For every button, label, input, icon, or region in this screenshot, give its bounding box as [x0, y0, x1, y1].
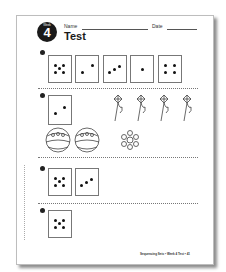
dot-card-5 [48, 168, 72, 196]
copyright-margin [24, 165, 27, 240]
date-line [167, 29, 197, 30]
question-1-marker [40, 50, 45, 55]
name-line [82, 29, 148, 30]
badge-number: 4 [37, 26, 57, 40]
dot-card-1 [130, 55, 154, 83]
separator [38, 88, 198, 89]
week-badge: Week 4 [37, 22, 57, 42]
dot-card-3 [75, 168, 99, 196]
name-label: Name [64, 23, 77, 29]
separator [38, 157, 198, 158]
dot-card-3 [103, 55, 127, 83]
page-footer: Sequencing Sets • Week 4 Test • 41 [140, 252, 190, 256]
page-title: Test [64, 30, 86, 42]
balls-and-flower-illustration [45, 127, 165, 155]
kites-illustration [110, 93, 205, 123]
question-4-marker [40, 208, 45, 213]
separator [38, 203, 198, 204]
question-3-marker [40, 166, 45, 171]
dot-card-5 [48, 55, 72, 83]
dot-card-5 [48, 210, 72, 238]
dot-card-2 [48, 95, 72, 125]
dot-card-4 [158, 55, 182, 83]
dot-card-2 [75, 55, 99, 83]
question-2-marker [40, 93, 45, 98]
date-label: Date [152, 23, 163, 29]
